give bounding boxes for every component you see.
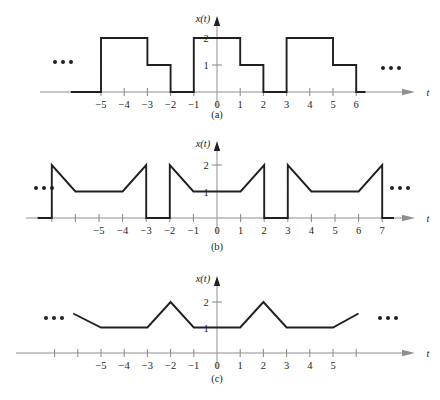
y-tick-label-a: 1: [203, 60, 208, 71]
x-tick-label-c: −5: [95, 360, 106, 371]
ellipsis-right-c: [378, 316, 398, 320]
x-tick-label-c: 1: [238, 360, 243, 371]
x-tick-label-b: 6: [356, 225, 361, 236]
x-axis-label-b: t: [427, 213, 431, 224]
figure-container: x(t)t−5−4−3−2−1012345612(a) x(t)t−5−4−3−…: [0, 0, 440, 400]
x-axis-label-a: t: [427, 87, 431, 98]
ellipsis-right-b: [390, 186, 410, 190]
ellipsis-left-b: [34, 186, 54, 190]
ellipsis-left-c: [44, 316, 64, 320]
x-tick-label-b: 1: [238, 225, 243, 236]
x-tick-label-a: 4: [307, 99, 313, 110]
y-axis-label-b: x(t): [195, 138, 211, 150]
x-tick-label-c: 0: [214, 360, 219, 371]
waveform-c: [73, 302, 358, 328]
x-axis-arrow-c: [402, 350, 415, 356]
x-tick-label-c: 2: [261, 360, 266, 371]
y-axis-arrow-a: [214, 16, 220, 26]
x-tick-label-a: −4: [119, 99, 131, 110]
panel-b: x(t)t−5−4−3−2−10123456712(b): [26, 138, 431, 253]
x-tick-label-a: 6: [354, 99, 359, 110]
x-tick-label-b: −4: [117, 225, 129, 236]
x-tick-label-b: 2: [262, 225, 267, 236]
x-tick-label-c: 5: [330, 360, 335, 371]
panel-caption-c: (c): [211, 373, 223, 385]
y-axis-label-c: x(t): [195, 273, 211, 285]
signal-figure: x(t)t−5−4−3−2−1012345612(a) x(t)t−5−4−3−…: [0, 0, 440, 400]
x-tick-label-b: 4: [309, 225, 315, 236]
x-tick-label-b: −1: [188, 225, 199, 236]
x-tick-label-a: 1: [238, 99, 243, 110]
x-tick-label-b: 7: [380, 225, 385, 236]
panel-c: x(t)t−5−4−3−2−101234512(c): [16, 273, 431, 385]
x-tick-label-b: 0: [214, 225, 219, 236]
x-tick-label-a: 2: [261, 99, 266, 110]
x-tick-label-c: −4: [119, 360, 131, 371]
panel-caption-b: (b): [211, 241, 224, 253]
x-axis-arrow-b: [402, 215, 415, 221]
y-axis-arrow-c: [214, 276, 220, 286]
x-tick-label-a: 3: [284, 99, 289, 110]
x-tick-label-a: −5: [95, 99, 106, 110]
y-axis-label-a: x(t): [195, 13, 211, 25]
x-axis-arrow-a: [402, 89, 415, 95]
x-tick-label-b: 3: [285, 225, 290, 236]
waveform-b: [38, 165, 394, 218]
x-axis-label-c: t: [427, 348, 431, 359]
panel-a: x(t)t−5−4−3−2−1012345612(a): [40, 13, 431, 121]
x-tick-label-a: −2: [165, 99, 176, 110]
x-tick-label-c: 4: [307, 360, 313, 371]
y-tick-label-b: 2: [203, 160, 208, 171]
x-tick-label-a: 5: [330, 99, 335, 110]
ellipsis-right-a: [381, 66, 401, 70]
ellipsis-left-a: [53, 60, 73, 64]
x-tick-label-b: −5: [93, 225, 104, 236]
x-tick-label-c: −2: [165, 360, 176, 371]
x-tick-label-c: −3: [142, 360, 153, 371]
x-tick-label-b: 5: [332, 225, 337, 236]
x-tick-label-a: −1: [188, 99, 199, 110]
x-tick-label-c: 3: [284, 360, 289, 371]
panel-caption-a: (a): [211, 109, 223, 121]
y-tick-label-c: 2: [203, 297, 208, 308]
x-tick-label-a: −3: [142, 99, 153, 110]
x-tick-label-c: −1: [188, 360, 199, 371]
x-tick-label-b: −3: [141, 225, 152, 236]
y-axis-arrow-b: [214, 141, 220, 151]
x-tick-label-b: −2: [164, 225, 175, 236]
